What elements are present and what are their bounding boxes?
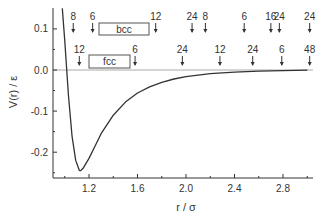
bcc-shell-count: 8 (203, 11, 209, 22)
x-tick-label: 2.0 (179, 183, 193, 194)
fcc-arrow-head-icon (218, 62, 222, 66)
bcc-shell-count: 6 (90, 11, 96, 22)
bcc-arrow-head-icon (203, 29, 207, 33)
plot-area: 1.21.62.02.42.80.10.0-0.1-0.286122486162… (31, 8, 316, 194)
bcc-arrow-head-icon (71, 29, 75, 33)
bcc-shell-count: 8 (70, 11, 76, 22)
bcc-arrow-head-icon (190, 29, 194, 33)
y-tick-label: -0.2 (31, 147, 49, 158)
y-tick-label: 0.0 (34, 65, 48, 76)
fcc-arrow-head-icon (280, 62, 284, 66)
fcc-shell-count: 12 (214, 44, 226, 55)
fcc-shell-count: 6 (279, 44, 285, 55)
bcc-arrow-head-icon (277, 29, 281, 33)
fcc-arrow-head-icon (133, 62, 137, 66)
bcc-shell-count: 6 (241, 11, 247, 22)
fcc-shell-count: 24 (177, 44, 189, 55)
potential-chart: 1.21.62.02.42.80.10.0-0.1-0.286122486162… (0, 0, 324, 219)
fcc-label: fcc (103, 56, 116, 67)
y-tick-label: 0.1 (34, 23, 48, 34)
fcc-shell-count: 24 (247, 44, 259, 55)
bcc-arrow-head-icon (308, 29, 312, 33)
bcc-arrow-head-icon (242, 29, 246, 33)
bcc-shell-count: 12 (150, 11, 162, 22)
fcc-arrow-head-icon (308, 62, 312, 66)
bcc-shell-count: 24 (274, 11, 286, 22)
x-axis-label: r / σ (176, 201, 196, 213)
x-tick-label: 2.8 (276, 183, 290, 194)
fcc-shell-count: 12 (74, 44, 86, 55)
bcc-shell-count: 24 (304, 11, 316, 22)
x-tick-label: 1.2 (82, 183, 96, 194)
fcc-arrow-head-icon (77, 62, 81, 66)
bcc-arrow-head-icon (154, 29, 158, 33)
fcc-arrow-head-icon (251, 62, 255, 66)
bcc-arrow-head-icon (91, 29, 95, 33)
bcc-label: bcc (116, 24, 132, 35)
fcc-shell-count: 6 (132, 44, 138, 55)
y-tick-label: -0.1 (31, 106, 49, 117)
bcc-arrow-head-icon (269, 29, 273, 33)
bcc-shell-count: 24 (187, 11, 199, 22)
fcc-arrow-head-icon (180, 62, 184, 66)
fcc-shell-count: 48 (304, 44, 316, 55)
x-tick-label: 1.6 (131, 183, 145, 194)
y-axis-label: V(r) / ε (7, 76, 19, 108)
x-tick-label: 2.4 (228, 183, 242, 194)
